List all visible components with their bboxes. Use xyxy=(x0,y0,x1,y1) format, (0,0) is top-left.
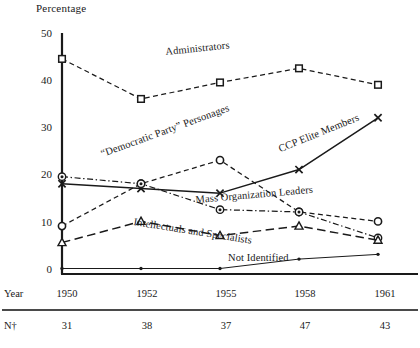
data-point-circle-dot xyxy=(137,180,144,187)
data-point-small-dot xyxy=(60,267,63,270)
table-cell-year-1: 1952 xyxy=(122,288,172,299)
table-cell-year-3: 1958 xyxy=(280,288,330,299)
table-divider-rule xyxy=(2,309,418,311)
data-point-small-dot xyxy=(218,267,221,270)
data-point-circle-dot xyxy=(295,208,302,215)
table-row-label-n: N† xyxy=(4,320,17,331)
data-point-circle-dot xyxy=(58,173,65,180)
data-point-open-triangle xyxy=(295,222,303,229)
data-point-open-circle xyxy=(216,157,223,164)
series-5 xyxy=(60,253,379,271)
table-cell-n-0: 31 xyxy=(42,320,92,331)
data-point-open-square xyxy=(217,79,224,86)
data-point-open-circle xyxy=(58,223,65,230)
data-point-open-square xyxy=(296,65,303,72)
data-point-small-dot xyxy=(297,257,300,260)
series-label-not-identified: Not Identified xyxy=(228,252,289,263)
data-point-open-triangle xyxy=(58,238,66,245)
table-cell-n-3: 47 xyxy=(280,320,330,331)
data-point-open-square xyxy=(138,96,145,103)
table-cell-n-1: 38 xyxy=(122,320,172,331)
table-row-label-year: Year xyxy=(4,288,23,299)
chart-figure: Percentage 50 40 30 20 10 0 Administrato… xyxy=(0,0,420,348)
data-point-cross-x xyxy=(374,114,381,121)
table-cell-n-2: 37 xyxy=(201,320,251,331)
data-point-small-dot xyxy=(139,267,142,270)
data-point-small-dot xyxy=(376,253,379,256)
series-0 xyxy=(59,56,382,103)
table-cell-year-0: 1950 xyxy=(42,288,92,299)
table-cell-year-4: 1961 xyxy=(360,288,410,299)
table-cell-year-2: 1955 xyxy=(201,288,251,299)
table-cell-n-4: 43 xyxy=(360,320,410,331)
data-point-circle-dot xyxy=(216,206,223,213)
data-point-open-square xyxy=(59,56,66,63)
data-point-open-circle xyxy=(374,218,381,225)
data-point-open-square xyxy=(375,82,382,89)
